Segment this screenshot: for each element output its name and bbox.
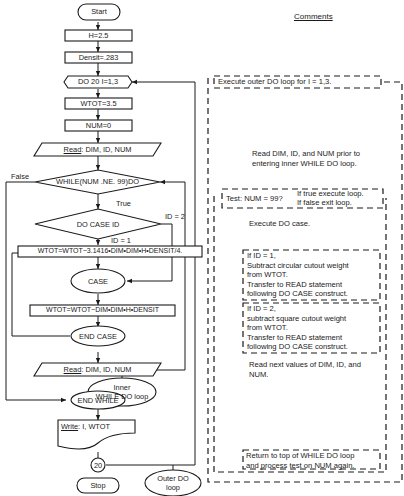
id2-label: ID = 2 <box>165 212 185 221</box>
read-keyword: Read <box>64 145 82 154</box>
calc-square-label: WTOT=WTOT−DIM•DIM•H•DENSIT <box>30 306 175 313</box>
comment-test: Test: NUM = 99? If true execute loop. If… <box>226 190 384 208</box>
flowchart-labels: Start H=2.5 Densit=.283 DO 20 I=1,3 WTOT… <box>0 0 404 496</box>
outer-loop-label: Outer DO loop <box>145 474 201 492</box>
stop-label: Stop <box>77 481 119 490</box>
comment-test-false: If false exit loop. <box>297 198 352 208</box>
true-label: True <box>116 199 131 208</box>
while-label: WHILE(NUM .NE. 99)DO <box>35 177 160 186</box>
start-label: Start <box>78 7 120 16</box>
h-assign-label: H=2.5 <box>65 31 132 40</box>
read-vars: : DIM, ID, NUM <box>81 145 131 154</box>
comment-outer-do: Execute outer DO loop for I = 1,3. <box>218 77 331 87</box>
read-label: Read: DIM, ID, NUM <box>38 145 157 154</box>
read-next-label: Read: DIM, ID, NUM <box>38 365 157 374</box>
read-next-keyword: Read <box>64 365 82 374</box>
comment-test-label: Test: NUM = 99? <box>226 194 283 204</box>
comment-id2-block: If ID = 2, subtract square cutout weight… <box>247 304 348 352</box>
false-label: False <box>11 172 29 181</box>
end-case-label: END CASE <box>71 332 125 341</box>
case-label: CASE <box>71 277 125 286</box>
write-vars: : I, WTOT <box>78 422 110 431</box>
comment-read-prior: Read DIM, ID, and NUM prior to entering … <box>252 149 360 168</box>
connector-20-label: 20 <box>91 461 105 470</box>
comment-return-top: Return to top of WHILE DO loop and proce… <box>246 451 354 470</box>
wtot-assign-label: WTOT=3.5 <box>65 99 132 108</box>
comment-execute-case: Execute DO case. <box>249 219 310 229</box>
do-loop-label: DO 20 I=1,3 <box>64 77 132 86</box>
comment-id1-block: If ID = 1, Subtract circular cutout weig… <box>247 251 349 299</box>
calc-circular-label: WTOT=WTOT−3.1416•DIM•DIM•H•DENSIT/4. <box>18 247 202 254</box>
comments-heading: Comments <box>294 12 333 21</box>
num-assign-label: NUM=0 <box>65 121 132 130</box>
comment-read-next: Read next values of DIM, ID, and NUM. <box>249 360 361 379</box>
end-while-label: END WHILE <box>71 396 125 405</box>
do-case-label: DO CASE ID <box>35 220 161 229</box>
read-next-vars: : DIM, ID, NUM <box>81 365 131 374</box>
write-keyword: Write <box>61 422 78 431</box>
densit-assign-label: Densit=.283 <box>65 53 132 62</box>
id1-label: ID = 1 <box>111 236 131 245</box>
write-label: Write: I, WTOT <box>61 422 110 431</box>
